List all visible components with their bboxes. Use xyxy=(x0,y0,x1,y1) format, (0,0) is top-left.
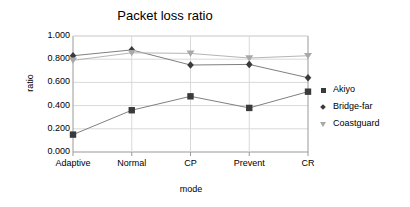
data-point-akiyo xyxy=(246,105,252,111)
x-axis-tick-label: CP xyxy=(184,158,197,168)
legend-item-bridge-far[interactable]: Bridge-far xyxy=(318,99,408,114)
chart-legend: AkiyoBridge-farCoastguard xyxy=(318,82,408,133)
legend-item-coastguard[interactable]: Coastguard xyxy=(318,116,408,131)
x-axis-tick-label: Prevent xyxy=(234,158,265,168)
legend-label: Akiyo xyxy=(333,84,355,95)
data-point-bridge-far xyxy=(246,61,253,69)
x-axis-tick-label: CR xyxy=(302,158,315,168)
legend-item-akiyo[interactable]: Akiyo xyxy=(318,82,408,97)
data-point-akiyo xyxy=(187,93,193,99)
x-axis-title: mode xyxy=(73,184,309,194)
triangle-down-marker-icon xyxy=(318,118,330,130)
marker-glyph xyxy=(321,88,326,93)
legend-label: Bridge-far xyxy=(333,101,373,112)
legend-label: Coastguard xyxy=(333,118,380,129)
square-marker-icon xyxy=(318,84,330,96)
diamond-marker-icon xyxy=(318,101,330,113)
packet-loss-ratio-chart: Packet loss ratio ratio 0.0000.2000.4000… xyxy=(0,0,410,207)
marker-glyph xyxy=(320,122,326,127)
data-point-coastguard xyxy=(69,58,77,64)
data-point-bridge-far xyxy=(187,61,194,69)
data-point-akiyo xyxy=(305,88,311,94)
x-axis-tick-label: Normal xyxy=(117,158,146,168)
data-point-bridge-far xyxy=(305,74,312,82)
data-point-akiyo xyxy=(70,131,76,137)
marker-glyph xyxy=(320,104,326,110)
x-axis-tick-label: Adaptive xyxy=(55,158,90,168)
data-point-akiyo xyxy=(129,107,135,113)
